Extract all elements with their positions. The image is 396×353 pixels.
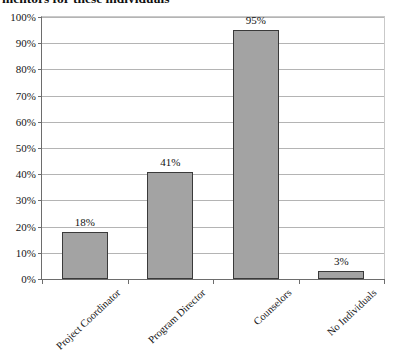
bar bbox=[62, 232, 108, 279]
bar-value-label: 3% bbox=[334, 255, 349, 267]
y-axis-label: 70% bbox=[16, 89, 36, 101]
y-axis-label: 10% bbox=[16, 247, 36, 259]
y-axis-label: 80% bbox=[16, 63, 36, 75]
y-axis-tick bbox=[38, 69, 42, 70]
bar bbox=[147, 172, 193, 279]
y-axis-label: 90% bbox=[16, 37, 36, 49]
y-axis-tick bbox=[38, 174, 42, 175]
x-axis-tick bbox=[384, 279, 385, 284]
caption-text: mentors for these individuals bbox=[2, 0, 169, 7]
y-axis-label: 40% bbox=[16, 168, 36, 180]
bar-value-label: 95% bbox=[246, 14, 266, 26]
x-axis-tick bbox=[128, 279, 129, 284]
plot-area: 0%10%20%30%40%50%60%70%80%90%100%18%Proj… bbox=[41, 16, 385, 280]
x-axis-label: Program Director bbox=[146, 287, 207, 345]
bar-chart: 0%10%20%30%40%50%60%70%80%90%100%18%Proj… bbox=[0, 8, 396, 353]
y-axis-label: 60% bbox=[16, 116, 36, 128]
cut-off-caption: mentors for these individuals bbox=[0, 0, 396, 8]
y-axis-label: 30% bbox=[16, 194, 36, 206]
y-axis-tick bbox=[38, 148, 42, 149]
x-axis-tick bbox=[42, 279, 43, 284]
x-axis-label: Project Coordinator bbox=[54, 287, 122, 352]
bar-value-label: 41% bbox=[160, 156, 180, 168]
gridline bbox=[42, 174, 384, 175]
gridline bbox=[42, 200, 384, 201]
y-axis-label: 50% bbox=[16, 142, 36, 154]
bar-value-label: 18% bbox=[75, 216, 95, 228]
bar bbox=[318, 271, 364, 279]
x-axis-label: Counselors bbox=[251, 287, 293, 327]
y-axis-label: 20% bbox=[16, 220, 36, 232]
y-axis-tick bbox=[38, 253, 42, 254]
x-axis-tick bbox=[213, 279, 214, 284]
x-axis-label: No Individuals bbox=[325, 287, 378, 338]
y-axis-tick bbox=[38, 200, 42, 201]
y-axis-label: 100% bbox=[10, 11, 36, 23]
gridline bbox=[42, 96, 384, 97]
y-axis-tick bbox=[38, 122, 42, 123]
y-axis-label: 0% bbox=[21, 273, 36, 285]
y-axis-tick bbox=[38, 43, 42, 44]
bar bbox=[233, 30, 279, 279]
x-axis-tick bbox=[299, 279, 300, 284]
y-axis-tick bbox=[38, 96, 42, 97]
gridline bbox=[42, 17, 384, 18]
gridline bbox=[42, 69, 384, 70]
gridline bbox=[42, 122, 384, 123]
y-axis-tick bbox=[38, 227, 42, 228]
y-axis-tick bbox=[38, 17, 42, 18]
gridline bbox=[42, 43, 384, 44]
gridline bbox=[42, 148, 384, 149]
